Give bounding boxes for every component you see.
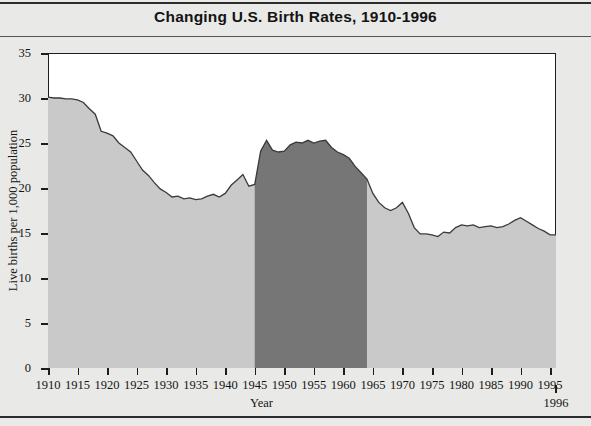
y-tick-15 [41, 233, 48, 235]
frame-rule-under-title [0, 36, 591, 37]
x-tick-label-1985: 1985 [479, 378, 504, 393]
x-tick-label-1930: 1930 [154, 378, 179, 393]
x-tick-label-1975: 1975 [420, 378, 445, 393]
end-year-tick [555, 385, 557, 393]
x-tick-1940 [225, 368, 227, 375]
end-year-label: 1996 [544, 396, 569, 411]
x-tick-1910 [48, 368, 50, 375]
x-tick-label-1940: 1940 [213, 378, 238, 393]
x-tick-1960 [343, 368, 345, 375]
chart-title: Changing U.S. Birth Rates, 1910-1996 [0, 8, 591, 26]
y-tick-10 [41, 278, 48, 280]
x-tick-label-1935: 1935 [183, 378, 208, 393]
y-tick-0 [41, 368, 48, 370]
x-tick-1995 [550, 368, 552, 375]
frame-rule-bottom [0, 416, 591, 418]
x-tick-label-1990: 1990 [508, 378, 533, 393]
y-tick-35 [41, 53, 48, 55]
x-tick-label-1915: 1915 [65, 378, 90, 393]
y-tick-label-10: 10 [19, 271, 32, 286]
y-tick-label-30: 30 [19, 91, 32, 106]
x-tick-1950 [284, 368, 286, 375]
x-axis-label: Year [250, 396, 273, 411]
x-tick-1925 [137, 368, 139, 375]
x-tick-label-1960: 1960 [331, 378, 356, 393]
x-tick-label-1925: 1925 [124, 378, 149, 393]
x-tick-1955 [314, 368, 316, 375]
x-tick-1935 [196, 368, 198, 375]
x-tick-label-1910: 1910 [36, 378, 61, 393]
frame-rule-top [0, 2, 591, 4]
y-tick-30 [41, 98, 48, 100]
y-tick-label-35: 35 [19, 46, 32, 61]
x-tick-1920 [107, 368, 109, 375]
birth-rate-area-chart [48, 53, 556, 368]
x-tick-label-1945: 1945 [242, 378, 267, 393]
y-tick-25 [41, 143, 48, 145]
x-tick-label-1965: 1965 [360, 378, 385, 393]
y-tick-label-15: 15 [19, 226, 32, 241]
x-tick-1945 [255, 368, 257, 375]
x-tick-label-1950: 1950 [272, 378, 297, 393]
x-tick-label-1995: 1995 [538, 378, 563, 393]
plot-area: 05101520253035 1910191519201925193019351… [48, 53, 556, 368]
x-tick-1970 [402, 368, 404, 375]
x-tick-1980 [462, 368, 464, 375]
x-tick-label-1980: 1980 [449, 378, 474, 393]
x-tick-label-1920: 1920 [95, 378, 120, 393]
y-tick-label-20: 20 [19, 181, 32, 196]
figure: Changing U.S. Birth Rates, 1910-1996 Liv… [0, 0, 591, 426]
x-tick-1975 [432, 368, 434, 375]
y-tick-label-0: 0 [25, 361, 31, 376]
x-tick-label-1970: 1970 [390, 378, 415, 393]
y-tick-20 [41, 188, 48, 190]
x-tick-1965 [373, 368, 375, 375]
y-tick-label-5: 5 [25, 316, 31, 331]
x-tick-1930 [166, 368, 168, 375]
y-axis-label-text: Live births per 1,000 population [7, 130, 22, 291]
x-tick-label-1955: 1955 [301, 378, 326, 393]
x-tick-1915 [78, 368, 80, 375]
y-tick-5 [41, 323, 48, 325]
y-tick-label-25: 25 [19, 136, 32, 151]
x-tick-1990 [521, 368, 523, 375]
x-tick-1985 [491, 368, 493, 375]
